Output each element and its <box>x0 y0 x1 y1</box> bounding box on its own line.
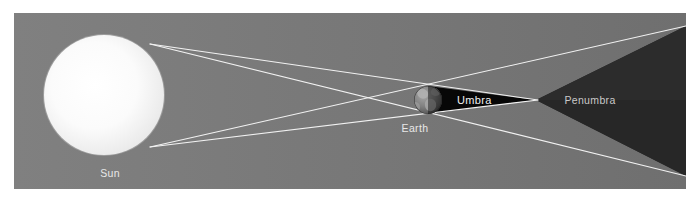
umbra-label: Umbra <box>457 94 492 106</box>
earth-label: Earth <box>402 122 429 134</box>
sun-body <box>43 34 165 156</box>
sun-disc <box>44 35 164 155</box>
penumbra-label: Penumbra <box>564 94 615 106</box>
eclipse-diagram: Sun Earth Umbra Penumbra <box>0 0 695 202</box>
eclipse-diagram-canvas: Sun Earth Umbra Penumbra <box>0 0 695 202</box>
scene: Sun Earth Umbra Penumbra <box>14 13 686 189</box>
sun-label: Sun <box>100 167 120 179</box>
